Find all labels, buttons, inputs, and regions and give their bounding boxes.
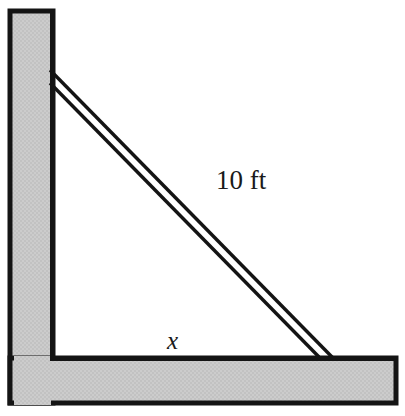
hypotenuse-label: 10 ft [216, 165, 267, 195]
ladder-diagram-svg: 10 ft x [0, 0, 405, 416]
diagram-background [0, 0, 405, 416]
base-label: x [166, 327, 178, 354]
ladder-wall-diagram: 10 ft x [0, 0, 405, 416]
wall-structure [10, 11, 53, 403]
floor-fill [10, 358, 396, 403]
wall-fill [10, 11, 53, 403]
corner-join-fill [14, 356, 51, 405]
